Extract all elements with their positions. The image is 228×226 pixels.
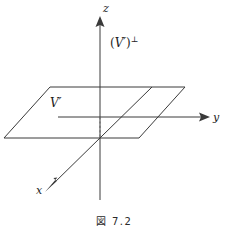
- v-prime-symbol: V′: [115, 36, 126, 50]
- orthogonal-complement-label: (V′)⊥: [110, 36, 138, 49]
- axis-label-z: z: [103, 3, 109, 14]
- perpendicular-icon: ⊥: [131, 35, 139, 44]
- axis-x-line: [52, 87, 152, 185]
- geometry-canvas: [0, 0, 228, 226]
- axis-x-arrowhead: [45, 178, 57, 192]
- axis-label-y: y: [213, 112, 219, 123]
- figure-caption: 図 7.2: [0, 213, 228, 226]
- plane-v-prime: [4, 87, 185, 138]
- axis-label-x: x: [36, 185, 42, 196]
- plane-label-v-prime: V′: [50, 97, 61, 109]
- figure-container: z y x V′ (V′)⊥ 図 7.2: [0, 0, 228, 226]
